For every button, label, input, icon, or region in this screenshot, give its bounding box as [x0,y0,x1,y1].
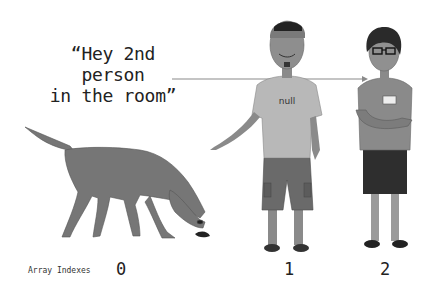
dog-figure [25,127,205,238]
illustration: null [0,0,440,301]
name-badge [383,96,396,104]
array-indexes-label: Array Indexes [28,266,91,275]
index-2: 2 [380,259,390,279]
index-1: 1 [284,259,294,279]
dog-poop-icon [195,232,210,238]
shirt-text: null [279,96,295,106]
man-figure: null [210,21,322,252]
index-0: 0 [116,259,126,279]
woman-figure [356,27,412,248]
